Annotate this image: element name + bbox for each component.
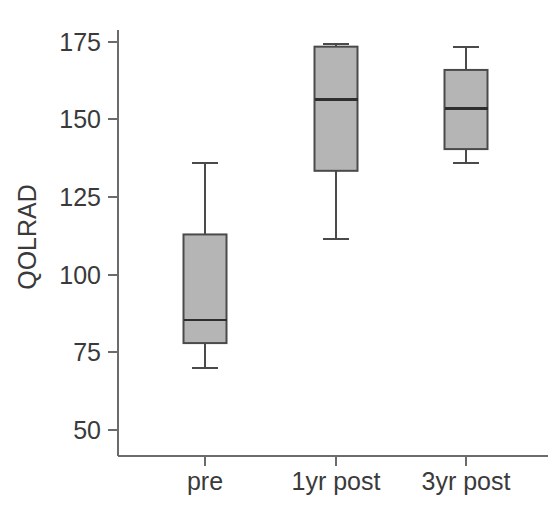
y-tick-group: [108, 42, 118, 430]
y-tick-label-50: 50: [73, 416, 101, 444]
y-tick-label-100: 100: [59, 261, 101, 289]
y-tick-label-125: 125: [59, 183, 101, 211]
x-tick-label-1yr-post: 1yr post: [292, 467, 381, 495]
x-tick-label-pre: pre: [187, 467, 223, 495]
plot-area: 175 150 125 100 75 50 QOLRAD pre 1yr pos…: [0, 0, 557, 505]
box-plot-chart: 175 150 125 100 75 50 QOLRAD pre 1yr pos…: [0, 0, 557, 505]
box-plot-3yr-post: [445, 47, 488, 163]
box-iqr: [184, 234, 227, 343]
y-tick-label-75: 75: [73, 338, 101, 366]
box-series-layer: [184, 44, 488, 368]
x-tick-group: [205, 456, 466, 466]
y-axis-title: QOLRAD: [13, 184, 41, 290]
box-plot-pre: [184, 163, 227, 368]
y-tick-label-150: 150: [59, 105, 101, 133]
x-tick-label-3yr-post: 3yr post: [422, 467, 511, 495]
box-iqr: [315, 47, 358, 171]
y-tick-label-175: 175: [59, 28, 101, 56]
box-plot-1yr-post: [315, 44, 358, 240]
